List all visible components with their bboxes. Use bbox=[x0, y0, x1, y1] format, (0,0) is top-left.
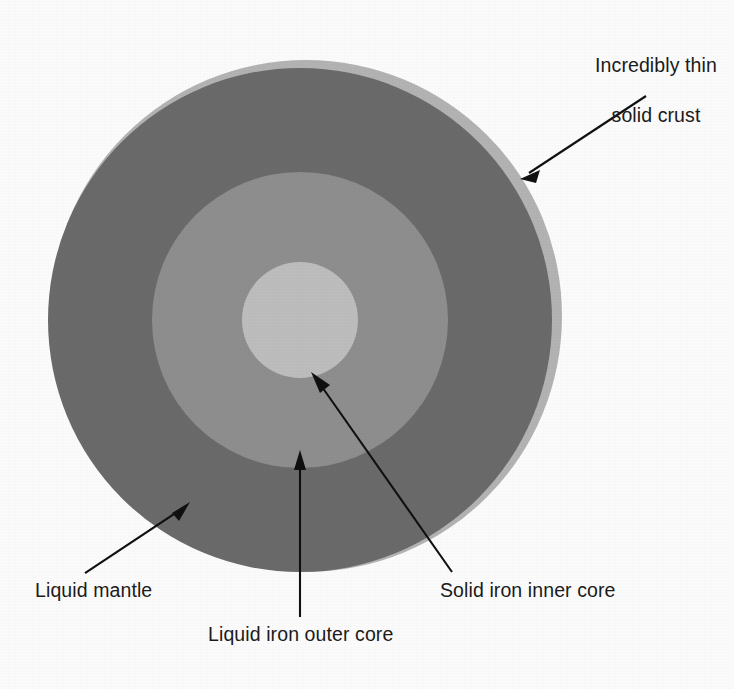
diagram-canvas: Incredibly thin solid crust Liquid mantl… bbox=[0, 0, 734, 689]
label-crust-line1: Incredibly thin bbox=[595, 54, 717, 76]
layer-inner-core bbox=[242, 262, 358, 378]
label-crust-line2: solid crust bbox=[612, 104, 701, 126]
label-mantle: Liquid mantle bbox=[35, 578, 152, 603]
label-inner-core: Solid iron inner core bbox=[440, 578, 616, 603]
label-outer-core: Liquid iron outer core bbox=[208, 622, 393, 647]
label-crust: Incredibly thin solid crust bbox=[578, 28, 734, 128]
